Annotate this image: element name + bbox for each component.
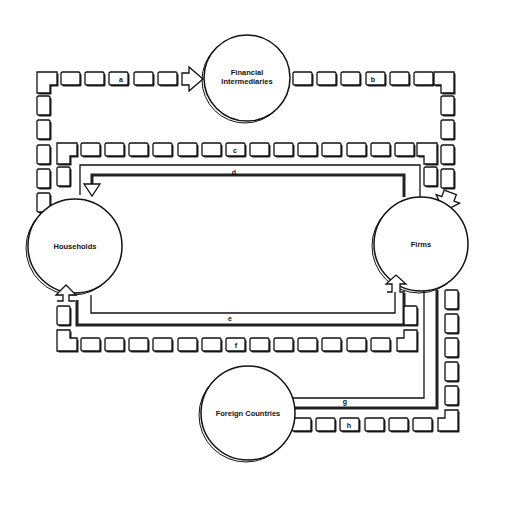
flow-label-b: b [371,76,375,83]
flow-h-chain: h [292,290,460,433]
flow-label-h: h [347,422,351,429]
flow-a-arrowhead [182,67,203,91]
flow-d-line: d [80,165,420,198]
flow-f-chain: f [56,285,419,353]
flow-label-d: d [232,169,236,176]
flow-label-a: a [119,76,123,83]
flow-a-chain: a [37,67,203,214]
flow-label-g: g [343,398,347,406]
financial-intermediaries-node[interactable]: Financial Intermediaries [202,35,290,123]
firms-node[interactable]: Firms [372,197,468,293]
foreign-countries-node[interactable]: Foreign Countries [199,366,295,462]
circular-flow-diagram: a b c [0,0,510,510]
flow-label-c: c [233,147,237,154]
flow-label-e: e [228,315,232,322]
firms-label: Firms [411,240,431,249]
foreign-countries-label: Foreign Countries [216,409,281,418]
flow-e-line: e [77,275,406,325]
households-node[interactable]: Households [26,199,122,295]
financial-label-line2: Intermediaries [221,77,272,86]
financial-label-line1: Financial [231,68,264,77]
households-label: Households [54,242,97,251]
